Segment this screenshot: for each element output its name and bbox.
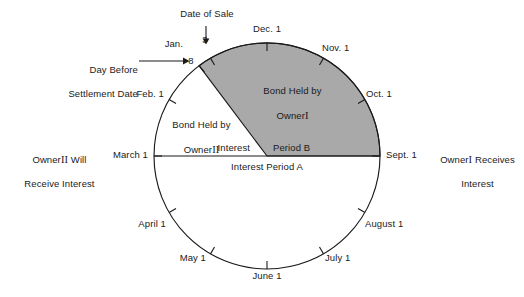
march-label: March 1 — [94, 149, 148, 161]
owner-two-receives-line1: Owner — [32, 154, 60, 165]
bond-held-owner-two-line1: Bond Held by — [172, 119, 230, 130]
owner-one-receives-line1: Owner — [440, 154, 468, 165]
august-label: August 1 — [365, 218, 423, 230]
bond-held-owner-one-line1: Bond Held by — [263, 85, 321, 96]
owner-two-receives-line2: Receive Interest — [24, 178, 94, 189]
owner-two-receives-line1-tail: Will — [68, 154, 86, 165]
june-label: June 1 — [238, 270, 296, 282]
bond-held-by-owner-one-label: Bond Held by OwnerI — [232, 73, 342, 134]
owner-one-receives-line1-tail: Receives — [472, 154, 515, 165]
october-label: Oct. 1 — [366, 88, 412, 100]
owner-two-receives-numeral: II — [61, 154, 68, 165]
day-before-settlement-arrow — [139, 58, 190, 65]
date-of-sale-day-label: 3 — [197, 34, 213, 46]
may-label: May 1 — [158, 252, 206, 264]
diagram-canvas: Date of Sale 3 Day Before Settlement Dat… — [0, 0, 524, 297]
period-b-label: Period B — [273, 142, 333, 154]
interest-word-label: Interest — [188, 142, 250, 154]
settlement-day-label: 8 — [184, 55, 198, 67]
april-label: April 1 — [112, 218, 166, 230]
owner-one-numeral: I — [305, 110, 309, 121]
owner-one-receives-interest-label: OwnerI Receives Interest — [424, 141, 520, 202]
owner-two-receives-interest-label: OwnerII Will Receive Interest — [8, 141, 100, 202]
interest-period-a-label: Interest Period A — [207, 161, 327, 173]
february-label: Feb. 1 — [112, 88, 164, 100]
january-label: Jan. — [155, 38, 183, 50]
owner-one-receives-line2: Interest — [461, 178, 493, 189]
bond-held-by-owner-two-label: Bond Held by OwnerII — [148, 107, 244, 168]
date-of-sale-label: Date of Sale — [159, 8, 255, 20]
december-label: Dec. 1 — [230, 23, 304, 35]
bond-held-owner-one-line2: Owner — [276, 110, 304, 121]
day-before-settlement-label: Day Before Settlement Date — [34, 52, 138, 111]
november-label: Nov. 1 — [322, 42, 376, 54]
day-before-settlement-line1: Day Before — [89, 64, 138, 75]
july-label: July 1 — [325, 252, 367, 264]
